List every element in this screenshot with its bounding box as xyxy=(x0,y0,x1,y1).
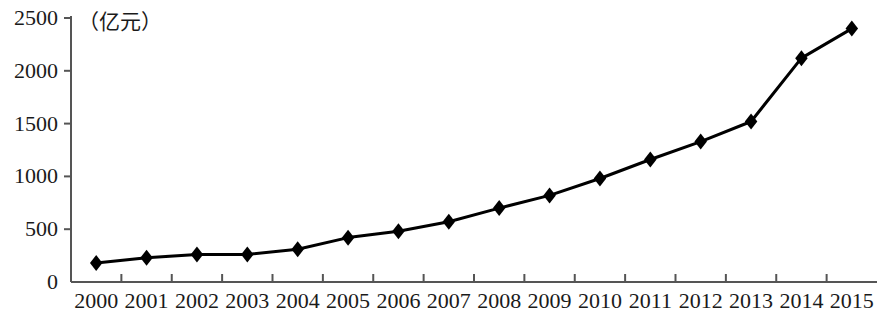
data-point-marker xyxy=(342,230,354,246)
y-axis-ticks xyxy=(64,18,71,229)
data-point-marker xyxy=(694,134,706,150)
data-point-marker xyxy=(191,247,203,263)
data-point-marker xyxy=(241,247,253,263)
data-point-marker xyxy=(90,255,102,271)
data-point-marker xyxy=(392,223,404,239)
axis-lines xyxy=(71,16,877,282)
data-point-marker xyxy=(846,21,858,37)
data-point-marker xyxy=(644,152,656,168)
data-point-marker xyxy=(140,250,152,266)
x-axis-ticks xyxy=(121,274,826,282)
data-point-marker xyxy=(543,187,555,203)
plot-area xyxy=(0,0,879,315)
data-point-marker xyxy=(443,214,455,230)
data-point-marker xyxy=(493,200,505,216)
line-chart: （亿元） 05001000150020002500 20002001200220… xyxy=(0,0,879,315)
data-point-marker xyxy=(291,241,303,257)
data-series-line xyxy=(96,29,852,263)
data-point-markers xyxy=(90,21,858,271)
data-point-marker xyxy=(594,171,606,187)
